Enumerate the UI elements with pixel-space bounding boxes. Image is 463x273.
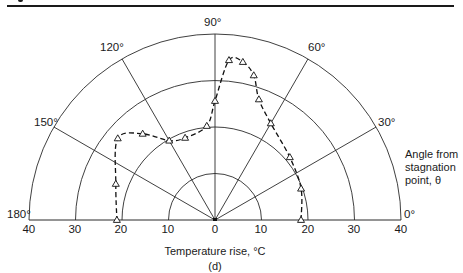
radial-tick-label: 30 (68, 224, 81, 236)
radial-tick-label: 40 (394, 224, 407, 236)
radial-tick-label: 10 (254, 224, 267, 236)
data-point-marker (286, 154, 293, 160)
radial-tick-label: 0 (212, 224, 218, 236)
data-point-marker (113, 216, 120, 222)
data-point-marker (212, 97, 219, 103)
data-point-marker (114, 135, 121, 141)
data-line (115, 57, 302, 220)
data-point-marker (250, 72, 257, 78)
angle-axis-label-line-3: point, θ (405, 174, 458, 187)
spoke-150 (54, 127, 215, 220)
data-point-marker (267, 120, 274, 126)
angle-axis-label: Angle from stagnation point, θ (405, 148, 458, 187)
angle-axis-label-line-1: Angle from (405, 148, 458, 161)
angle-label-90: 90° (204, 17, 221, 29)
angle-label-180: 180° (7, 209, 31, 221)
spoke-60 (215, 59, 308, 220)
radial-tick-label: 40 (22, 224, 35, 236)
data-point-marker (239, 58, 246, 64)
origin-marker (213, 218, 217, 221)
data-point-marker (298, 185, 305, 191)
spoke-30 (215, 127, 376, 220)
radial-tick-label: 30 (347, 224, 360, 236)
data-point-marker (112, 180, 119, 186)
data-point-marker (255, 96, 262, 102)
x-axis-title: Temperature rise, °C (0, 245, 430, 257)
data-point-marker (203, 122, 210, 128)
radial-tick-label: 20 (114, 224, 127, 236)
angle-label-60: 60° (308, 42, 325, 54)
radial-tick-label: 10 (161, 224, 174, 236)
data-point-marker (298, 216, 305, 222)
radial-tick-label: 20 (301, 224, 314, 236)
angle-label-120: 120° (100, 42, 124, 54)
angle-label-150: 150° (34, 117, 58, 129)
angle-label-0: 0° (404, 209, 415, 221)
panel-label: (d) (0, 260, 430, 272)
angle-axis-label-line-2: stagnation (405, 161, 458, 174)
angle-label-30: 30° (378, 117, 395, 129)
